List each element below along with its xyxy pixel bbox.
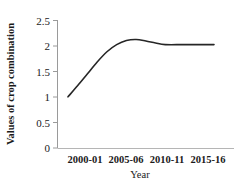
y-tick-label-0: 0 [45, 142, 51, 154]
x-tick-label-2005-06: 2005-06 [109, 154, 144, 165]
y-tick-label-1-5: 1.5 [36, 66, 50, 78]
x-axis-title: Year [130, 169, 150, 180]
y-axis-title: Values of crop combination [5, 23, 16, 145]
x-tick-label-2015-16: 2015-16 [191, 154, 226, 165]
y-tick-label-2-5: 2.5 [36, 15, 50, 27]
y-tick-label-0-5: 0.5 [36, 117, 50, 129]
y-tick-label-1: 1 [45, 91, 51, 103]
y-tick-label-2: 2 [45, 40, 51, 52]
chart-container: 2.5 2 1.5 1 0.5 0 2000-01 2005-06 2010-1… [0, 0, 243, 187]
x-tick-label-2000-01: 2000-01 [68, 154, 103, 165]
line-chart: 2.5 2 1.5 1 0.5 0 2000-01 2005-06 2010-1… [0, 0, 243, 187]
x-tick-label-2010-11: 2010-11 [150, 154, 184, 165]
